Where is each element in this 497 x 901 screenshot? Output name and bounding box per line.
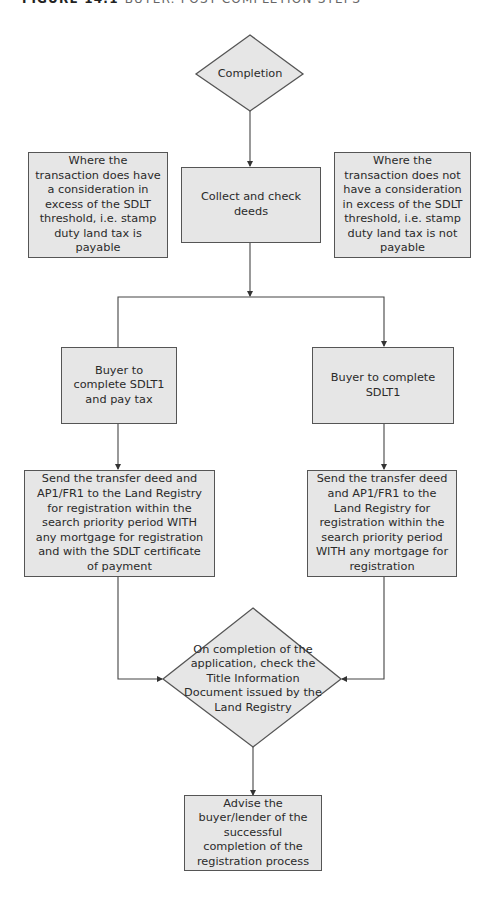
collect-deeds-box: Collect and check deeds [181, 167, 321, 243]
advise-box: Advise the buyer/lender of the successfu… [184, 795, 322, 871]
note-not-payable-box: Where the transaction does not have a co… [334, 152, 471, 258]
check-tid-node: On completion of the application, check … [178, 646, 328, 712]
start-node: Completion [205, 62, 295, 86]
flowchart-canvas [0, 0, 497, 901]
send-with-cert-box: Send the transfer deed and AP1/FR1 to th… [24, 470, 215, 577]
sdlt-only-box: Buyer to complete SDLT1 [312, 347, 454, 424]
note-payable-box: Where the transaction does have a consid… [28, 152, 168, 258]
send-no-cert-box: Send the transfer deed and AP1/FR1 to th… [307, 470, 457, 577]
edge-split-sdlt-pay [118, 297, 250, 347]
edge-split-sdlt-only [250, 297, 384, 346]
edge-send-nocert-check [342, 577, 384, 679]
edge-send-cert-check [118, 577, 162, 679]
sdlt-pay-box: Buyer to complete SDLT1 and pay tax [61, 347, 177, 424]
